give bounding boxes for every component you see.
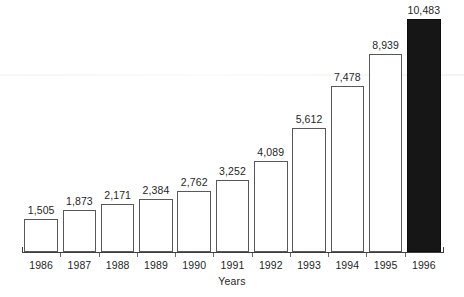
x-axis-tick	[137, 253, 138, 257]
x-axis-title: Years	[0, 275, 464, 287]
bar-value-label-1994: 7,478	[334, 72, 361, 83]
bar-value-label-1988: 2,171	[104, 190, 131, 201]
bar-value-label-1996: 10,483	[407, 5, 440, 16]
x-tick-label-1995: 1995	[374, 259, 398, 272]
bar-1990[interactable]	[177, 191, 210, 252]
x-tick-label-1989: 1989	[144, 259, 168, 272]
bar-slot: 2,384	[139, 8, 172, 252]
bar-value-label-1990: 2,762	[181, 177, 208, 188]
x-axis-tick	[405, 253, 406, 257]
bar-chart-figure: 1,5051,8732,1712,3842,7623,2524,0895,612…	[0, 0, 464, 297]
bar-1988[interactable]	[101, 204, 134, 252]
bar-slot: 1,873	[63, 8, 96, 252]
bar-slot: 3,252	[216, 8, 249, 252]
x-tick-label-1986: 1986	[29, 259, 53, 272]
bar-slot: 7,478	[331, 8, 364, 252]
x-axis-tick	[252, 253, 253, 257]
bar-1991[interactable]	[216, 180, 249, 252]
x-tick-label-1988: 1988	[106, 259, 130, 272]
bar-slot: 5,612	[292, 8, 325, 252]
bar-value-label-1989: 2,384	[143, 185, 170, 196]
bar-value-label-1986: 1,505	[28, 205, 55, 216]
x-tick-label-1996: 1996	[412, 259, 436, 272]
x-axis-left-cap	[22, 247, 23, 253]
x-axis-tick-labels: 1986198719881989199019911992199319941995…	[22, 259, 443, 273]
bar-value-label-1991: 3,252	[219, 166, 246, 177]
x-tick-label-1987: 1987	[68, 259, 92, 272]
x-axis-tick	[290, 253, 291, 257]
bar-1987[interactable]	[63, 210, 96, 252]
x-axis-tick	[99, 253, 100, 257]
x-tick-label-1990: 1990	[182, 259, 206, 272]
bar-1992[interactable]	[254, 161, 287, 252]
x-axis-tick	[60, 253, 61, 257]
x-axis-tick	[175, 253, 176, 257]
bar-1989[interactable]	[139, 199, 172, 252]
bar-1996[interactable]	[407, 19, 440, 252]
plot-area: 1,5051,8732,1712,3842,7623,2524,0895,612…	[22, 8, 443, 252]
bar-slot: 10,483	[407, 8, 440, 252]
bar-1986[interactable]	[24, 219, 57, 252]
bar-1994[interactable]	[331, 86, 364, 252]
x-tick-label-1993: 1993	[297, 259, 321, 272]
x-axis-tick	[366, 253, 367, 257]
x-axis-tick	[213, 253, 214, 257]
x-axis-tick	[328, 253, 329, 257]
bar-slot: 1,505	[24, 8, 57, 252]
bar-1995[interactable]	[369, 54, 402, 252]
bar-slot: 2,171	[101, 8, 134, 252]
x-axis-right-cap	[443, 247, 444, 253]
bar-slot: 2,762	[177, 8, 210, 252]
bar-value-label-1995: 8,939	[372, 40, 399, 51]
bar-value-label-1993: 5,612	[296, 114, 323, 125]
bar-value-label-1992: 4,089	[257, 147, 284, 158]
x-axis-line	[22, 252, 443, 253]
bar-1993[interactable]	[292, 128, 325, 252]
bar-value-label-1987: 1,873	[66, 196, 93, 207]
bar-slot: 8,939	[369, 8, 402, 252]
x-tick-label-1991: 1991	[221, 259, 245, 272]
x-tick-label-1992: 1992	[259, 259, 283, 272]
bar-slot: 4,089	[254, 8, 287, 252]
x-tick-label-1994: 1994	[335, 259, 359, 272]
